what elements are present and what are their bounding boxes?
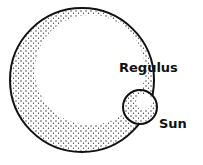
sun-label: Sun: [159, 117, 187, 130]
regulus-label: Regulus: [119, 61, 178, 74]
diagram-canvas: [0, 0, 203, 165]
regulus-star: [10, 8, 154, 152]
sun-star: [123, 90, 157, 124]
